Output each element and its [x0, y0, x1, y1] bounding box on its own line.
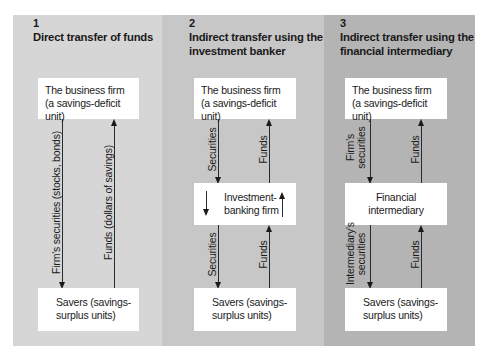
panel-1-funds-line	[114, 124, 115, 288]
panel-2-upper-funds-line	[269, 124, 270, 183]
panel-3-title-line1: Indirect transfer using the	[340, 30, 474, 44]
panel-3-title-line2: financial intermediary	[340, 44, 474, 58]
panel-2-lower-securities-label: Securities	[206, 227, 218, 282]
box-line: intermediary	[345, 204, 447, 217]
panel-2-upper-securities-line	[218, 119, 219, 179]
panel-2-number: 2	[189, 17, 195, 30]
panel-3-financial-intermediary-box: Financial intermediary	[345, 183, 447, 225]
panel-3-upper-funds-label: Funds	[409, 122, 421, 177]
panel-2-title-line1: Indirect transfer using the	[189, 30, 323, 44]
inner-down-line	[206, 191, 207, 211]
panel-2-lower-funds-label: Funds	[257, 227, 269, 282]
panel-3-business-firm-box: The business firm (a savings-deficit uni…	[345, 78, 447, 119]
box-line: surplus units)	[56, 309, 139, 322]
panel-2-savers-box: Savers (savings- surplus units)	[194, 288, 296, 331]
panel-2-title-line2: investment banker	[189, 44, 323, 58]
panel-1-business-firm-box: The business firm (a savings-deficit uni…	[38, 78, 139, 119]
box-line: The business firm	[201, 84, 296, 97]
panel-3-title: Indirect transfer using the financial in…	[340, 30, 474, 58]
box-line: Savers (savings-	[56, 296, 139, 309]
box-line: The business firm	[352, 84, 447, 97]
panel-3-lower-funds-label: Funds	[409, 227, 421, 282]
panel-3-number: 3	[340, 17, 346, 30]
arrow-down-icon	[203, 209, 209, 216]
panel-2-lower-securities-line	[218, 225, 219, 284]
label-line: securities	[356, 223, 367, 285]
panel-3-upper-securities-line	[370, 119, 371, 179]
panel-2-lower-funds-line	[269, 230, 270, 288]
panel-2-investment-banking-box: Investment- banking firm	[194, 183, 296, 225]
box-line: banking firm	[224, 204, 279, 217]
box-line: Savers (savings-	[212, 296, 296, 309]
panel-1-title-line1: Direct transfer of funds	[33, 30, 153, 44]
panel-3-lower-funds-line	[421, 230, 422, 288]
panel-3-upper-funds-line	[421, 124, 422, 183]
inner-up-line	[282, 197, 283, 217]
middle-box-text: Investment- banking firm	[224, 191, 279, 217]
panel-2-business-firm-box: The business firm (a savings-deficit uni…	[194, 78, 296, 119]
panel-1-savers-box: Savers (savings- surplus units)	[38, 288, 139, 331]
panel-1-funds-label: Funds (dollars of savings)	[102, 120, 114, 285]
box-line: The business firm	[45, 84, 139, 97]
box-line: Financial	[345, 191, 447, 204]
box-line: Savers (savings-	[363, 296, 447, 309]
panel-2-upper-funds-label: Funds	[257, 122, 269, 177]
panel-1-securities-line	[62, 119, 63, 284]
panel-3-savers-box: Savers (savings- surplus units)	[345, 288, 447, 331]
arrow-up-icon	[279, 192, 285, 199]
box-line: Investment-	[224, 191, 279, 204]
box-line: surplus units)	[363, 309, 447, 322]
panel-3-lower-securities-label: Intermediary's securities	[345, 223, 367, 285]
panel-3-lower-securities-line	[370, 225, 371, 284]
panel-3-upper-securities-label: Firm's securities	[345, 120, 367, 175]
box-line: (a savings-deficit unit)	[201, 97, 296, 123]
box-line: surplus units)	[212, 309, 296, 322]
label-line: securities	[356, 120, 367, 175]
panel-1-securities-label: Firm's securities (stocks, bonds)	[50, 120, 62, 285]
panel-1-title: Direct transfer of funds	[33, 30, 153, 44]
panel-2-title: Indirect transfer using the investment b…	[189, 30, 323, 58]
panel-1-number: 1	[33, 17, 39, 30]
panel-2-upper-securities-label: Securities	[206, 122, 218, 177]
